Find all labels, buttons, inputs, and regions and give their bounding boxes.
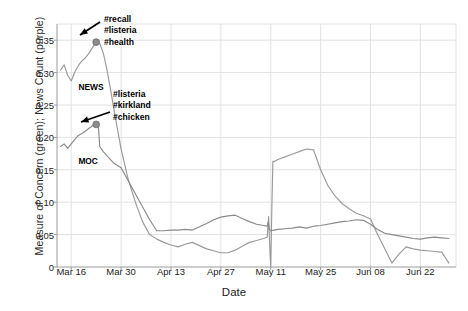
annotation-line: #health <box>104 37 137 48</box>
chart-figure: Measure of Concern (green); News Count (… <box>0 0 468 311</box>
peak-marker <box>93 121 100 128</box>
annotation-line: #kirkland <box>113 100 151 111</box>
grid-lines <box>57 24 456 267</box>
series-line-moc <box>61 124 449 239</box>
annotation-line: #chicken <box>113 112 151 123</box>
annotation-line: #listeria <box>104 25 137 36</box>
peak-marker <box>93 39 100 46</box>
series-line-news <box>61 42 449 267</box>
series-label-moc: MOC <box>78 156 98 166</box>
axis-lines <box>54 24 456 270</box>
annotation-line: #listeria <box>113 89 151 100</box>
annot-news-peak: #recall#listeria#health <box>104 14 137 48</box>
plot-canvas <box>0 0 468 311</box>
annotation-line: #recall <box>104 14 137 25</box>
series-label-news: NEWS <box>78 82 103 92</box>
annot-moc-peak: #listeria#kirkland#chicken <box>113 89 151 123</box>
